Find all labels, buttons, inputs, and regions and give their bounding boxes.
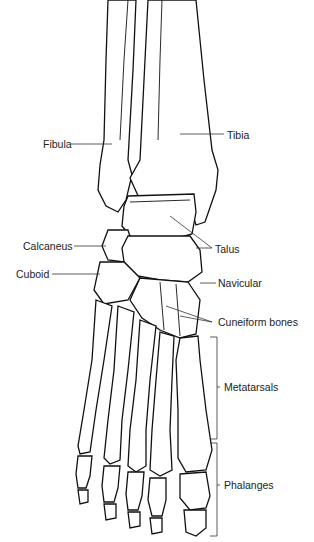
tibia-bone [130,0,218,225]
label-cuboid: Cuboid [16,268,49,280]
label-tibia: Tibia [227,129,249,141]
metatarsals-bracket [210,337,217,439]
phalanges-bracket [210,443,217,536]
foot-bone-diagram: Fibula Tibia Calcaneus Talus Cuboid Navi… [0,0,314,542]
label-talus: Talus [215,243,240,255]
label-metatarsals: Metatarsals [224,381,278,393]
label-calcaneus: Calcaneus [23,240,73,252]
label-navicular: Navicular [218,277,262,289]
label-fibula: Fibula [43,138,72,150]
label-cuneiform-bones: Cuneiform bones [218,316,298,328]
label-phalanges: Phalanges [224,479,274,491]
talus-bone [122,194,196,240]
